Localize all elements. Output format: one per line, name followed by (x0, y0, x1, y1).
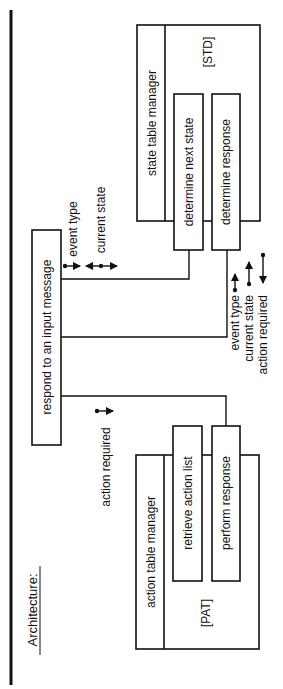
pat-tag: [PAT] (199, 599, 213, 627)
retrieve-action-list-label: retrieve action list (181, 456, 195, 550)
retrieve-action-list-node: retrieve action list (173, 426, 202, 581)
flow-current-state: current state (86, 186, 117, 268)
flow-legend: event type current state action required (228, 253, 270, 375)
determine-response-label: determine response (219, 119, 233, 225)
flow-action-required: action required (95, 409, 113, 507)
legend-event-type-label: event type (228, 295, 242, 351)
connector-respond-response (61, 250, 227, 337)
respond-node: respond to an input message (32, 230, 61, 445)
determine-next-state-node: determine next state (174, 94, 203, 250)
flow-event-type: event type (63, 201, 80, 268)
action-manager-label: action table manager (144, 496, 158, 608)
legend-current-state-label: current state (242, 295, 256, 362)
std-tag: [STD] (201, 37, 215, 68)
flow-event-type-label: event type (66, 201, 80, 257)
legend-action-required: action required (256, 253, 270, 375)
diagram-title: Architecture: (25, 574, 40, 647)
connector-respond-perform (61, 396, 226, 426)
state-manager-label: state table manager (145, 70, 159, 176)
legend-action-required-label: action required (256, 295, 270, 374)
flow-action-required-label: action required (99, 427, 113, 506)
architecture-diagram: Architecture: respond to an input messag… (0, 0, 283, 689)
determine-next-state-label: determine next state (182, 117, 196, 226)
perform-response-node: perform response (212, 426, 240, 581)
state-table-manager: state table manager [STD] determine next… (137, 25, 260, 250)
legend-current-state: current state (242, 262, 256, 362)
action-table-manager: action table manager [PAT] retrieve acti… (136, 426, 259, 649)
legend-event-type: event type (228, 274, 242, 350)
determine-response-node: determine response (212, 94, 240, 250)
flow-current-state-label: current state (94, 186, 108, 253)
connector-respond-next-state (61, 250, 189, 279)
respond-label: respond to an input message (40, 259, 54, 414)
perform-response-label: perform response (219, 456, 233, 550)
